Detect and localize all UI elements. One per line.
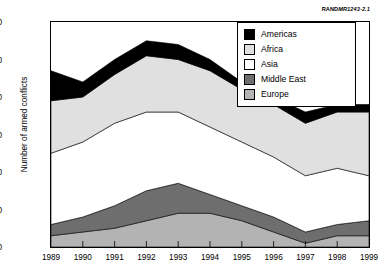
- y-axis-title: Number of armed conflicts: [20, 45, 29, 205]
- legend-item-africa: Africa: [244, 42, 349, 57]
- y-tick-label-20: 20: [0, 168, 2, 177]
- legend-label: Middle East: [261, 75, 306, 84]
- legend-item-asia: Asia: [244, 57, 349, 72]
- y-tick-label-30: 30: [0, 130, 2, 139]
- legend-label: Africa: [261, 45, 283, 54]
- y-tick-label-10: 10: [0, 205, 2, 214]
- x-tick-label-1999: 1999: [349, 253, 383, 262]
- y-tick-label-50: 50: [0, 55, 2, 64]
- legend-swatch-icon: [244, 44, 255, 55]
- chart-legend: AmericasAfricaAsiaMiddle EastEurope: [237, 22, 356, 107]
- legend-swatch-icon: [244, 59, 255, 70]
- legend-swatch-icon: [244, 89, 255, 100]
- legend-swatch-icon: [244, 29, 255, 40]
- rand-credit-line: RANDMR1243-2.1: [322, 6, 370, 12]
- legend-item-middle-east: Middle East: [244, 72, 349, 87]
- rand-doc-number: MR1243-2.1: [338, 6, 370, 12]
- legend-item-americas: Americas: [244, 27, 349, 42]
- legend-label: Asia: [261, 60, 278, 69]
- legend-label: Europe: [261, 90, 289, 99]
- y-tick-label-40: 40: [0, 93, 2, 102]
- y-tick-label-0: 0: [0, 243, 2, 252]
- y-tick-label-60: 60: [0, 18, 2, 27]
- legend-swatch-icon: [244, 74, 255, 85]
- rand-brand: RAND: [322, 6, 339, 12]
- legend-item-europe: Europe: [244, 87, 349, 102]
- legend-label: Americas: [261, 30, 297, 39]
